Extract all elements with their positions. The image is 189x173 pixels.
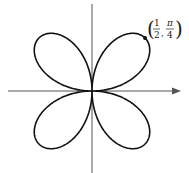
polar-rose-diagram: ( 1 2 , π 4 ) [0, 0, 189, 173]
comma: , [161, 28, 164, 38]
right-paren: ) [175, 17, 183, 41]
r-numerator: 1 [154, 18, 160, 28]
point-label: ( 1 2 , π 4 ) [147, 17, 183, 41]
theta-numerator: π [166, 18, 174, 28]
r-denominator: 2 [154, 30, 160, 40]
theta-denominator: 4 [167, 30, 173, 40]
x-axis-arrow-icon [172, 88, 181, 95]
